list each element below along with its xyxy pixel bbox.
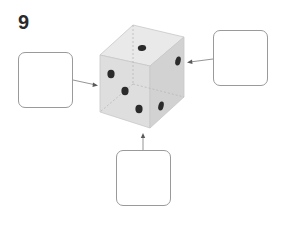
answer-box-bottom[interactable]: [116, 150, 171, 206]
pip-front-2: [121, 87, 128, 95]
answer-box-left[interactable]: [18, 52, 73, 108]
die-cube: [100, 25, 184, 128]
answer-box-right[interactable]: [213, 30, 268, 86]
arrow-right: [190, 59, 213, 62]
arrow-left: [73, 80, 96, 85]
pip-front-3: [135, 105, 142, 113]
pip-front-1: [107, 70, 114, 78]
